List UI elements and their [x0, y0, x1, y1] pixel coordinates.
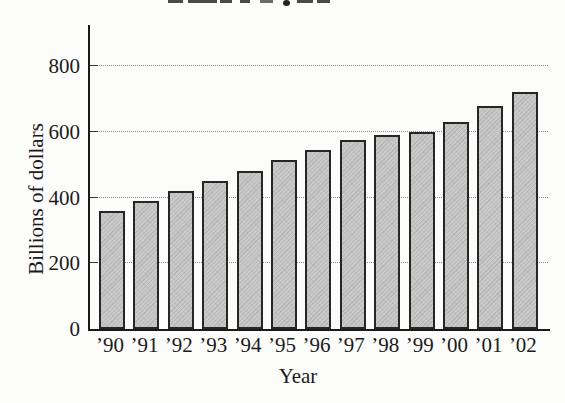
bar-91 [133, 201, 159, 329]
plot-area [88, 25, 550, 331]
x-tick-text: ’94 [234, 334, 262, 358]
bar-02 [512, 92, 538, 329]
x-tick-text: ’96 [302, 334, 330, 358]
x-tick-label-94: ’94 [235, 334, 261, 358]
bar-96 [305, 150, 331, 329]
x-tick-text: ’92 [165, 334, 193, 358]
x-tick-text: ’95 [268, 334, 296, 358]
bars-container [90, 25, 550, 329]
x-tick-text: ’02 [509, 334, 537, 358]
x-tick-label-01: ’01 [475, 334, 501, 358]
bar-98 [374, 135, 400, 329]
bar-chart-figure: Billions of dollars 0200400600800 ’90’91… [0, 0, 565, 403]
x-tick-text: ’93 [199, 334, 227, 358]
bar-95 [271, 160, 297, 329]
x-tick-label-93: ’93 [200, 334, 226, 358]
bar-93 [202, 181, 228, 329]
bar-90 [99, 211, 125, 329]
x-tick-text: ’01 [474, 334, 502, 358]
y-tick-label-400: 400 [36, 188, 80, 209]
x-tick-label-02: ’02 [510, 334, 536, 358]
x-tick-label-97: ’97 [338, 334, 364, 358]
x-tick-label-90: ’90 [97, 334, 123, 358]
x-tick-label-96: ’96 [303, 334, 329, 358]
x-tick-label-98: ’98 [372, 334, 398, 358]
y-tick-label-0: 0 [36, 319, 80, 340]
x-tick-text: ’00 [440, 334, 468, 358]
x-tick-label-00: ’00 [441, 334, 467, 358]
clipped-title-fragment [0, 0, 565, 7]
bar-00 [443, 122, 469, 329]
bar-97 [340, 140, 366, 329]
x-tick-text: ’99 [406, 334, 434, 358]
bar-92 [168, 191, 194, 329]
x-tick-text: ’97 [337, 334, 365, 358]
bar-99 [409, 132, 435, 329]
x-tick-text: ’98 [371, 334, 399, 358]
x-tick-label-91: ’91 [131, 334, 157, 358]
x-tick-label-92: ’92 [166, 334, 192, 358]
bar-94 [237, 171, 263, 329]
x-tick-label-95: ’95 [269, 334, 295, 358]
bar-01 [477, 106, 503, 329]
x-tick-labels: ’90’91’92’93’94’95’96’97’98’99’00’01’02 [88, 334, 548, 358]
x-tick-text: ’91 [130, 334, 158, 358]
x-axis-title: Year [228, 364, 368, 389]
y-tick-labels: 0200400600800 [36, 25, 80, 329]
x-tick-label-99: ’99 [407, 334, 433, 358]
y-tick-label-800: 800 [36, 56, 80, 77]
y-tick-label-600: 600 [36, 122, 80, 143]
y-tick-label-200: 200 [36, 253, 80, 274]
x-tick-text: ’90 [96, 334, 124, 358]
